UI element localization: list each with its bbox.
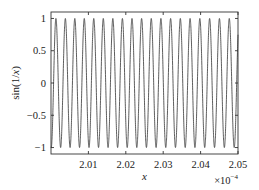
x-tick-label: 2.01 <box>79 159 97 170</box>
y-tick-label: 0.5 <box>33 45 46 56</box>
sin-curve <box>51 18 238 147</box>
x-tick-labels: 2.012.022.032.042.05 <box>79 159 247 170</box>
axes-frame <box>51 12 238 154</box>
y-axis-label: sin(1/x) <box>9 66 22 100</box>
x-tick-label: 2.03 <box>154 159 172 170</box>
x-tick-label: 2.05 <box>229 159 247 170</box>
y-tick-label: 0 <box>41 78 46 89</box>
x-tick-label: 2.02 <box>117 159 135 170</box>
x-axis-label: x <box>141 170 147 182</box>
y-tick-label: −0.5 <box>27 110 46 121</box>
x-axis-multiplier: ×10−4 <box>214 173 238 186</box>
y-tick-labels: −1−0.500.51 <box>27 13 46 153</box>
chart-figure: 2.012.022.032.042.05 −1−0.500.51 x sin(1… <box>0 0 259 190</box>
y-tick-label: 1 <box>41 13 46 24</box>
y-tick-label: −1 <box>35 142 46 153</box>
axis-ticks <box>51 12 238 154</box>
data-line-sin-1-over-x <box>51 18 238 147</box>
x-tick-label: 2.04 <box>191 159 210 170</box>
chart-svg: 2.012.022.032.042.05 −1−0.500.51 x sin(1… <box>0 0 259 190</box>
